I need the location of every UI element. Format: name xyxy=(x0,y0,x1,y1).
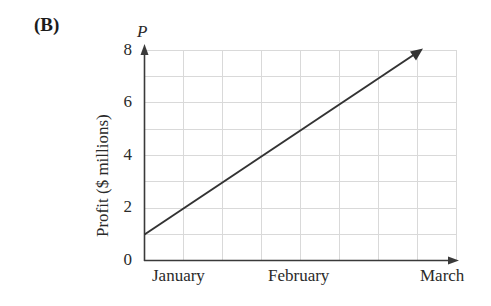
y-axis-variable: P xyxy=(137,22,147,42)
axes xyxy=(141,44,460,265)
line-chart xyxy=(0,0,491,306)
x-tick-march: March xyxy=(420,266,464,286)
x-axis-arrow-icon xyxy=(448,257,459,265)
y-tick-4: 4 xyxy=(112,145,132,165)
y-tick-6: 6 xyxy=(112,92,132,112)
y-axis-label: Profit ($ millions) xyxy=(93,114,113,237)
y-tick-0: 0 xyxy=(112,250,132,270)
y-tick-8: 8 xyxy=(112,40,132,60)
y-axis-arrow-icon xyxy=(141,44,149,55)
y-tick-2: 2 xyxy=(112,197,132,217)
grid xyxy=(144,50,457,260)
x-tick-january: January xyxy=(152,266,205,286)
x-tick-february: February xyxy=(268,266,329,286)
